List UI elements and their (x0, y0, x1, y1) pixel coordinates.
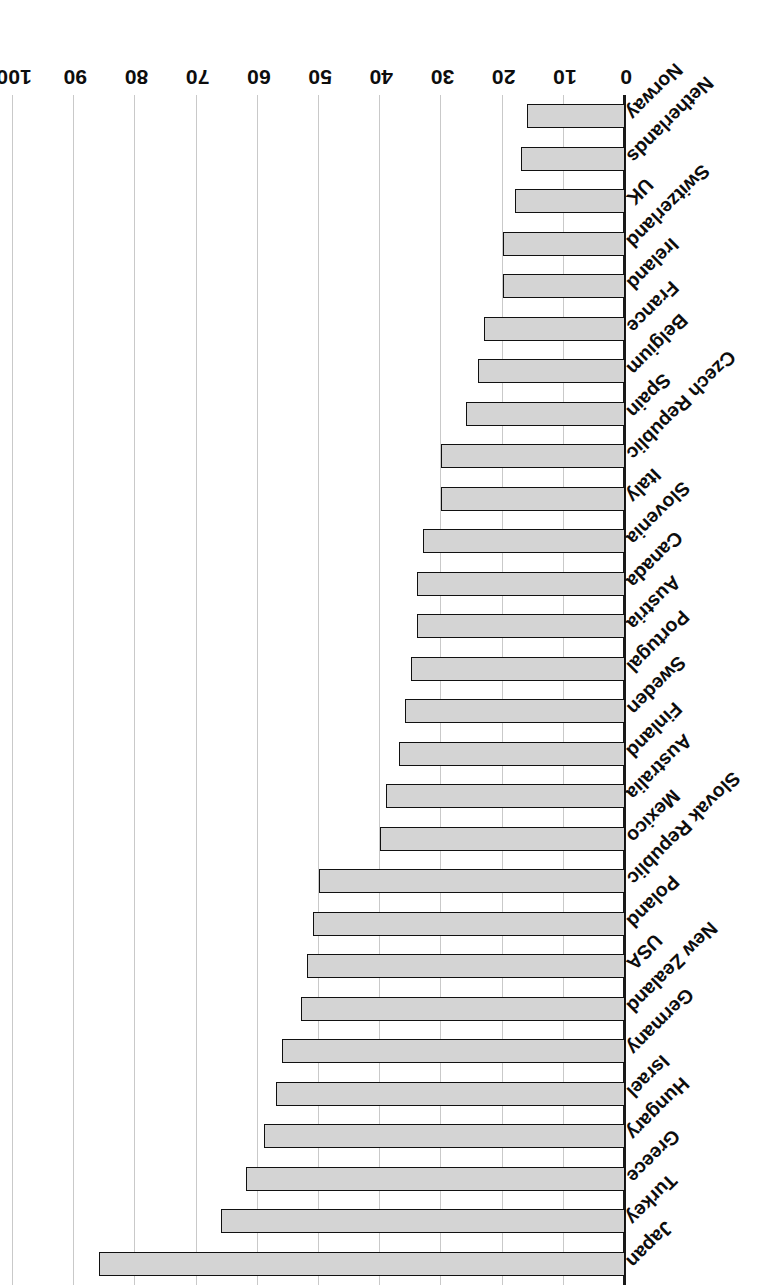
bar-row (14, 274, 625, 298)
bar-row (14, 1124, 625, 1148)
bar-row (14, 997, 625, 1021)
tick-label: 80 (125, 65, 149, 89)
bar (386, 784, 625, 808)
bar-row (14, 529, 625, 553)
bar-row (14, 954, 625, 978)
bar-row (14, 1209, 625, 1233)
bar (521, 147, 625, 171)
tick-label: 90 (63, 65, 87, 89)
bar-row (14, 232, 625, 256)
bar (246, 1167, 625, 1191)
bar-row (14, 912, 625, 936)
tick-label: 70 (186, 65, 210, 89)
bar (478, 359, 625, 383)
bar-row (14, 402, 625, 426)
bar (515, 189, 625, 213)
rotated-figure: 0102030405060708090100 JapanTurkeyGreece… (0, 0, 765, 1285)
tick-label: 100 (0, 65, 32, 89)
bar (380, 827, 625, 851)
bar (264, 1124, 625, 1148)
tick-label: 30 (431, 65, 455, 89)
plot-area (14, 95, 626, 1285)
gridline (12, 95, 13, 1285)
bar-row (14, 1252, 625, 1276)
bar-row (14, 359, 625, 383)
bar (319, 869, 625, 893)
bar (405, 699, 625, 723)
bar (411, 657, 625, 681)
bar (503, 232, 625, 256)
category-label: Japan (622, 1216, 678, 1272)
bar (466, 402, 625, 426)
bar-row (14, 784, 625, 808)
bar (527, 104, 625, 128)
bar (276, 1082, 625, 1106)
bar-row (14, 1082, 625, 1106)
tick-label: 0 (620, 65, 632, 89)
bar-series (14, 95, 625, 1285)
category-axis-labels: JapanTurkeyGreeceHungaryIsraelGermanyNew… (626, 95, 765, 1285)
bar (221, 1209, 625, 1233)
tick-label: 50 (308, 65, 332, 89)
tick-label: 20 (492, 65, 516, 89)
bar-row (14, 869, 625, 893)
bar-row (14, 742, 625, 766)
tick-label: 60 (247, 65, 271, 89)
bar (417, 572, 625, 596)
bar (441, 487, 625, 511)
bar (282, 1039, 625, 1063)
bar-row (14, 317, 625, 341)
bar-row (14, 572, 625, 596)
bar (503, 274, 625, 298)
bar-row (14, 657, 625, 681)
tick-label: 10 (553, 65, 577, 89)
bar (417, 614, 625, 638)
bar (313, 912, 625, 936)
bar-row (14, 147, 625, 171)
bar (99, 1252, 625, 1276)
bar (301, 997, 625, 1021)
bar (441, 444, 625, 468)
bar (423, 529, 625, 553)
bar-chart: 0102030405060708090100 JapanTurkeyGreece… (0, 0, 765, 1285)
bar-row (14, 1167, 625, 1191)
tick-label: 40 (369, 65, 393, 89)
bar-row (14, 699, 625, 723)
bar-row (14, 1039, 625, 1063)
bar-row (14, 444, 625, 468)
bar-row (14, 827, 625, 851)
bar-row (14, 104, 625, 128)
value-axis-tick-labels: 0102030405060708090100 (14, 23, 626, 89)
bar-row (14, 189, 625, 213)
bar-row (14, 487, 625, 511)
bar (484, 317, 625, 341)
bar (399, 742, 625, 766)
bar-row (14, 614, 625, 638)
bar (307, 954, 625, 978)
